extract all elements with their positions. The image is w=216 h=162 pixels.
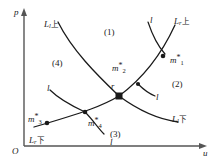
curve-label-cjk: 上 — [51, 20, 59, 29]
u-axis-label: u — [203, 149, 208, 158]
point-marker-m4 — [83, 110, 88, 115]
curve-L-l-lower — [119, 96, 178, 122]
region-label-1: (1) — [104, 28, 115, 37]
state-label-m3: m*3 — [28, 113, 42, 126]
state-sub: 3 — [39, 118, 42, 125]
p-axis-arrowhead — [21, 8, 27, 16]
state-sub: 1 — [181, 59, 184, 66]
state-sub: 2 — [123, 67, 126, 74]
point-marker-m3 — [45, 121, 50, 126]
wave-label-l-top-right: l — [150, 16, 153, 25]
curve-label-cjk: 下 — [37, 136, 45, 145]
point-marker-m2 — [136, 82, 140, 86]
p-axis-label: p — [14, 8, 19, 17]
region-label-2: (2) — [172, 80, 183, 89]
curve-label-L-l-lower: Ll下 — [172, 115, 186, 125]
curve-label-L-r-upper: Lr上 — [174, 17, 189, 27]
figure-canvas: p u O (1) (2) (3) (4) Ll上 Lr上 Ll下 Lr下 l … — [0, 0, 216, 162]
curve-label-cjk: 下 — [179, 115, 187, 124]
region-label-4: (4) — [52, 59, 63, 68]
state-label-m4: m*4 — [88, 117, 102, 130]
wave-label-l-left: l — [47, 84, 50, 93]
arc-l-left — [50, 90, 85, 112]
state-label-m2: m*2 — [112, 62, 126, 75]
point-marker-r — [116, 93, 123, 100]
state-sub: 4 — [99, 122, 102, 129]
wave-label-l-bottom: l — [110, 138, 113, 147]
point-marker-m1 — [161, 54, 166, 59]
curve-label-L-r-lower: Lr下 — [29, 136, 44, 146]
curve-label-cjk: 上 — [182, 17, 190, 26]
arc-l-right — [138, 84, 155, 96]
curve-label-L-l-upper: Ll上 — [44, 20, 58, 30]
wave-label-l-right: l — [156, 93, 159, 102]
curve-L-r-upper — [119, 25, 175, 96]
state-label-m1: m*1 — [170, 54, 184, 67]
origin-label: O — [12, 147, 19, 156]
intersection-label-r: r — [111, 82, 114, 91]
